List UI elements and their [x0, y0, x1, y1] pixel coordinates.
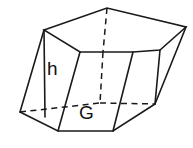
oblique-hexagonal-prism-drawing: [0, 0, 193, 148]
height-label: h: [47, 59, 58, 78]
base-area-label: G: [79, 103, 94, 122]
height-segment: [44, 30, 45, 117]
geometry-figure: h G: [0, 0, 193, 148]
